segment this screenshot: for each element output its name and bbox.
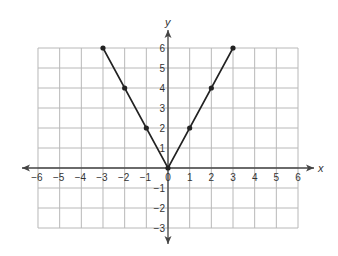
x-tick-label: 0 [165,172,171,183]
x-tick-label: 6 [295,172,301,183]
y-tick-label: 2 [159,123,165,134]
y-tick-label: 5 [159,63,165,74]
data-point-marker [230,45,235,50]
data-point-marker [100,45,105,50]
x-tick-label: −2 [118,172,130,183]
y-tick-label: 4 [159,83,165,94]
x-tick-label: −1 [140,172,152,183]
data-point-marker [209,85,214,90]
coordinate-plane: xy −6−5−4−3−2−10123456−3−2−1123456 [0,0,338,256]
x-tick-label: −5 [53,172,65,183]
data-point-marker [144,125,149,130]
tick-labels: −6−5−4−3−2−10123456−3−2−1123456 [31,43,301,234]
x-tick-label: 3 [230,172,236,183]
data-point-marker [122,85,127,90]
x-axis-label: x [317,162,324,174]
y-tick-label: −3 [154,223,166,234]
x-tick-label: 4 [252,172,258,183]
x-tick-label: −6 [31,172,43,183]
data-point-marker [165,165,170,170]
x-tick-label: −3 [96,172,108,183]
y-tick-label: 6 [159,43,165,54]
axes: xy [22,16,324,244]
y-tick-label: 3 [159,103,165,114]
x-tick-label: 1 [187,172,193,183]
y-tick-label: 1 [159,143,165,154]
data-point-marker [187,125,192,130]
y-tick-label: −2 [154,203,166,214]
x-tick-label: −4 [75,172,87,183]
x-tick-label: 5 [274,172,280,183]
y-tick-label: −1 [154,183,166,194]
y-axis-label: y [164,16,172,28]
x-tick-label: 2 [209,172,215,183]
